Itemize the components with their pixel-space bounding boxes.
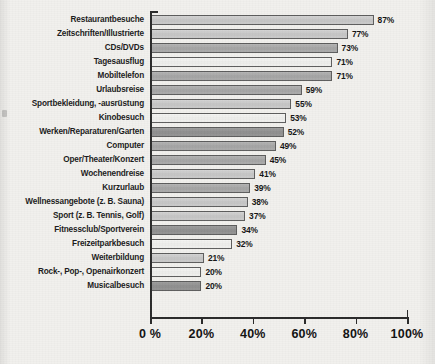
x-axis-tick-label: 60% <box>291 327 317 341</box>
bar-value-label: 38% <box>252 196 268 208</box>
bar <box>150 141 276 152</box>
bar-cell: 37% <box>150 209 435 223</box>
bar-cell: 59% <box>150 83 435 97</box>
bar <box>150 225 237 236</box>
category-label: Zeitschriften/Illustrierte <box>0 29 150 39</box>
bar <box>150 281 201 292</box>
bar <box>150 211 245 222</box>
category-label: Musicalbesuch <box>0 281 150 291</box>
bar-row: Sportbekleidung, -ausrüstung55% <box>0 97 435 111</box>
y-axis-line <box>150 11 152 318</box>
bar-cell: 39% <box>150 181 435 195</box>
x-axis-tick <box>150 317 152 324</box>
bar-row: Werken/Reparaturen/Garten52% <box>0 125 435 139</box>
category-label: Restaurantbesuche <box>0 15 150 25</box>
bar <box>150 183 250 194</box>
bar-value-label: 45% <box>270 154 286 166</box>
bar-cell: 49% <box>150 139 435 153</box>
bar <box>150 57 332 68</box>
x-axis-tick-label: 80% <box>343 327 369 341</box>
bar <box>150 113 286 124</box>
x-axis-tick <box>407 317 409 324</box>
bar-row: Zeitschriften/Illustrierte77% <box>0 27 435 41</box>
bar-value-label: 41% <box>259 168 275 180</box>
x-axis-tick <box>201 317 203 324</box>
category-label: Fitnessclub/Sportverein <box>0 225 150 235</box>
bar-value-label: 87% <box>378 14 394 26</box>
bar-cell: 53% <box>150 111 435 125</box>
x-axis-tick <box>253 317 255 324</box>
bar-row: Kurzurlaub39% <box>0 181 435 195</box>
category-label: Werken/Reparaturen/Garten <box>0 127 150 137</box>
bar-cell: 45% <box>150 153 435 167</box>
chart-rows: Restaurantbesuche87%Zeitschriften/Illust… <box>0 13 435 293</box>
bar-cell: 34% <box>150 223 435 237</box>
x-axis-tick-label: 0 % <box>139 327 161 341</box>
bar-row: Weiterbildung21% <box>0 251 435 265</box>
bar-row: Tagesausflug71% <box>0 55 435 69</box>
bar-row: Restaurantbesuche87% <box>0 13 435 27</box>
bar-value-label: 71% <box>336 56 352 68</box>
bar <box>150 43 338 54</box>
bar <box>150 85 302 96</box>
bar-cell: 20% <box>150 265 435 279</box>
bar-row: CDs/DVDs73% <box>0 41 435 55</box>
bar-value-label: 49% <box>280 140 296 152</box>
bar-cell: 21% <box>150 251 435 265</box>
bar-cell: 32% <box>150 237 435 251</box>
category-label: CDs/DVDs <box>0 43 150 53</box>
x-axis-tick-label: 20% <box>189 327 215 341</box>
bar-cell: 77% <box>150 27 435 41</box>
bar <box>150 71 332 82</box>
category-label: Rock-, Pop-, Openairkonzert <box>0 267 150 277</box>
bar-cell: 71% <box>150 55 435 69</box>
bar-row: Wochenendreise41% <box>0 167 435 181</box>
category-label: Mobiltelefon <box>0 71 150 81</box>
bar-value-label: 59% <box>306 84 322 96</box>
bar-row: Rock-, Pop-, Openairkonzert20% <box>0 265 435 279</box>
bar-value-label: 77% <box>352 28 368 40</box>
bar <box>150 197 248 208</box>
category-label: Freizeitparkbesuch <box>0 239 150 249</box>
bar <box>150 15 374 26</box>
bar-value-label: 34% <box>241 224 257 236</box>
bar <box>150 155 266 166</box>
bar-value-label: 21% <box>208 252 224 264</box>
bar-row: Oper/Theater/Konzert45% <box>0 153 435 167</box>
bar-value-label: 53% <box>290 112 306 124</box>
bar-row: Wellnessangebote (z. B. Sauna)38% <box>0 195 435 209</box>
category-label: Oper/Theater/Konzert <box>0 155 150 165</box>
bar-value-label: 32% <box>236 238 252 250</box>
bar <box>150 127 284 138</box>
category-label: Computer <box>0 141 150 151</box>
category-label: Kurzurlaub <box>0 183 150 193</box>
bar <box>150 267 201 278</box>
bar-row: Mobiltelefon71% <box>0 69 435 83</box>
bar-row: Kinobesuch53% <box>0 111 435 125</box>
bar-cell: 55% <box>150 97 435 111</box>
bar-value-label: 20% <box>205 280 221 292</box>
bar-cell: 87% <box>150 13 435 27</box>
bar <box>150 253 204 264</box>
category-label: Sport (z. B. Tennis, Golf) <box>0 211 150 221</box>
x-axis-tick-label: 40% <box>240 327 266 341</box>
category-label: Urlaubsreise <box>0 85 150 95</box>
x-axis-tick-label: 100% <box>391 327 424 341</box>
bar-cell: 38% <box>150 195 435 209</box>
category-label: Wochenendreise <box>0 169 150 179</box>
bar <box>150 29 348 40</box>
scan-artifact <box>2 110 7 117</box>
bar-row: Computer49% <box>0 139 435 153</box>
bar-row: Fitnessclub/Sportverein34% <box>0 223 435 237</box>
category-label: Sportbekleidung, -ausrüstung <box>0 99 150 109</box>
bar-cell: 52% <box>150 125 435 139</box>
y-axis-top-cap <box>150 11 158 13</box>
bar <box>150 239 232 250</box>
bar-value-label: 71% <box>336 70 352 82</box>
bar-cell: 20% <box>150 279 435 293</box>
category-label: Weiterbildung <box>0 253 150 263</box>
bar <box>150 99 291 110</box>
bar-row: Urlaubsreise59% <box>0 83 435 97</box>
x-axis-tick <box>304 317 306 324</box>
bar-chart: Restaurantbesuche87%Zeitschriften/Illust… <box>0 0 435 364</box>
